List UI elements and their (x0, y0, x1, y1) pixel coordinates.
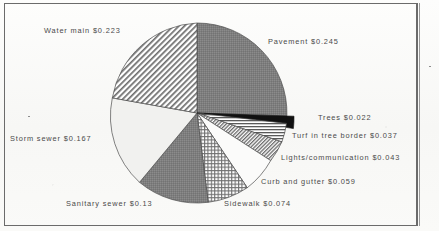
slice-label-curb-and-gutter: Curb and gutter $0.059 (261, 177, 356, 186)
scan-artifact-right (429, 66, 431, 67)
slice-label-lights-communication: Lights/communication $0.043 (281, 153, 400, 162)
slice-label-storm-sewer: Storm sewer $0.167 (10, 134, 91, 143)
slice-label-trees: Trees $0.022 (318, 113, 371, 122)
slice-label-turf-in-tree-border: Turf in tree border $0.037 (292, 131, 398, 140)
slice-label-sidewalk: Sidewalk $0.074 (224, 199, 291, 208)
figure-page: Water main $0.223 Pavement $0.245 Trees … (0, 0, 439, 231)
slice-label-sanitary-sewer: Sanitary sewer $0.13 (66, 199, 152, 208)
slice-label-water-main: Water main $0.223 (44, 26, 121, 35)
scan-artifact-left (28, 116, 30, 117)
slice-label-pavement: Pavement $0.245 (268, 37, 339, 46)
pie-slice-water-main[interactable] (112, 23, 197, 113)
